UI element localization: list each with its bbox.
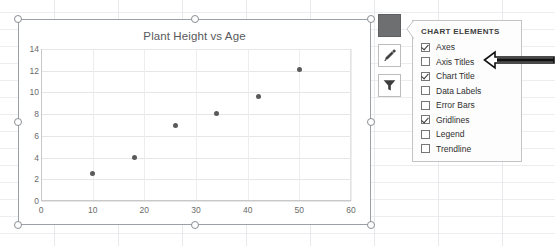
checkbox-axis-titles[interactable] xyxy=(421,57,430,66)
y-axis-tick-label: 14 xyxy=(21,44,39,54)
gridline-vertical xyxy=(196,49,197,201)
chart-object[interactable]: Plant Height vs Age 02468101214 01020304… xyxy=(18,19,371,225)
scatter-point[interactable] xyxy=(173,123,178,128)
selection-handle[interactable] xyxy=(367,15,375,23)
chart-element-label: Axis Titles xyxy=(436,57,474,67)
chart-element-label: Data Labels xyxy=(436,86,481,96)
x-axis-tick-label: 0 xyxy=(39,205,44,215)
chart-styles-button[interactable] xyxy=(378,44,401,67)
selection-handle[interactable] xyxy=(191,221,199,229)
panel-callout-beak xyxy=(406,20,414,40)
x-axis-tick-label: 20 xyxy=(140,205,149,215)
selection-handle[interactable] xyxy=(367,118,375,126)
x-axis-tick-labels: 0102030405060 xyxy=(41,205,351,217)
brush-icon xyxy=(379,47,400,64)
chart-element-row-trendline[interactable]: Trendline xyxy=(421,142,521,157)
x-axis-tick-label: 50 xyxy=(295,205,304,215)
gridline-vertical xyxy=(248,49,249,201)
y-axis-tick-label: 0 xyxy=(21,196,39,206)
gridline-vertical xyxy=(144,49,145,201)
annotation-arrow-icon xyxy=(483,49,555,71)
funnel-icon xyxy=(379,77,400,94)
y-axis-tick-labels: 02468101214 xyxy=(19,49,39,201)
gridline-vertical xyxy=(351,49,352,201)
checkbox-data-labels[interactable] xyxy=(421,86,430,95)
chart-element-row-data-labels[interactable]: Data Labels xyxy=(421,84,521,99)
selection-handle[interactable] xyxy=(14,15,22,23)
chart-element-row-gridlines[interactable]: Gridlines xyxy=(421,113,521,128)
chart-elements-panel-title: CHART ELEMENTS xyxy=(421,27,521,36)
x-axis-tick-label: 40 xyxy=(243,205,252,215)
y-axis-line xyxy=(41,49,42,201)
chart-element-label: Chart Title xyxy=(436,71,475,81)
scatter-point[interactable] xyxy=(256,94,261,99)
scatter-point[interactable] xyxy=(214,111,219,116)
gridline-horizontal xyxy=(41,201,351,202)
checkbox-error-bars[interactable] xyxy=(421,101,430,110)
x-axis-tick-label: 10 xyxy=(88,205,97,215)
chart-element-row-error-bars[interactable]: Error Bars xyxy=(421,98,521,113)
y-axis-tick-label: 10 xyxy=(21,87,39,97)
checkbox-axes[interactable] xyxy=(421,43,430,52)
chart-filters-button[interactable] xyxy=(378,74,401,97)
scatter-point[interactable] xyxy=(297,67,302,72)
scatter-point[interactable] xyxy=(132,155,137,160)
checkbox-chart-title[interactable] xyxy=(421,72,430,81)
y-axis-tick-label: 6 xyxy=(21,131,39,141)
checkbox-trendline[interactable] xyxy=(421,144,430,153)
y-axis-tick-label: 2 xyxy=(21,174,39,184)
chart-element-label: Gridlines xyxy=(436,115,470,125)
chart-element-row-legend[interactable]: Legend xyxy=(421,127,521,142)
selection-handle[interactable] xyxy=(14,221,22,229)
y-axis-tick-label: 8 xyxy=(21,109,39,119)
selection-handle[interactable] xyxy=(14,118,22,126)
x-axis-line xyxy=(41,200,351,201)
y-axis-tick-label: 4 xyxy=(21,153,39,163)
gridline-vertical xyxy=(93,49,94,201)
chart-element-label: Error Bars xyxy=(436,100,475,110)
chart-elements-panel[interactable]: CHART ELEMENTS AxesAxis TitlesChart Titl… xyxy=(412,20,522,162)
chart-element-label: Axes xyxy=(436,42,455,52)
checkbox-legend[interactable] xyxy=(421,130,430,139)
chart-elements-button[interactable] xyxy=(378,14,401,37)
x-axis-tick-label: 30 xyxy=(191,205,200,215)
chart-title[interactable]: Plant Height vs Age xyxy=(19,30,370,42)
chart-element-label: Legend xyxy=(436,129,464,139)
plot-area[interactable] xyxy=(41,49,351,201)
x-axis-tick-label: 60 xyxy=(346,205,355,215)
chart-element-label: Trendline xyxy=(436,144,471,154)
selection-handle[interactable] xyxy=(367,221,375,229)
y-axis-tick-label: 12 xyxy=(21,66,39,76)
selection-handle[interactable] xyxy=(191,15,199,23)
chart-element-row-chart-title[interactable]: Chart Title xyxy=(421,69,521,84)
checkbox-gridlines[interactable] xyxy=(421,115,430,124)
